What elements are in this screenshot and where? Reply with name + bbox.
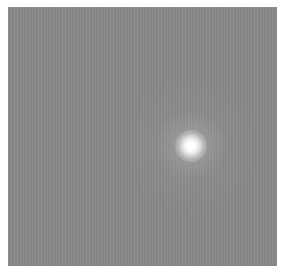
image-frame [8, 7, 277, 266]
bright-spot [175, 130, 207, 162]
